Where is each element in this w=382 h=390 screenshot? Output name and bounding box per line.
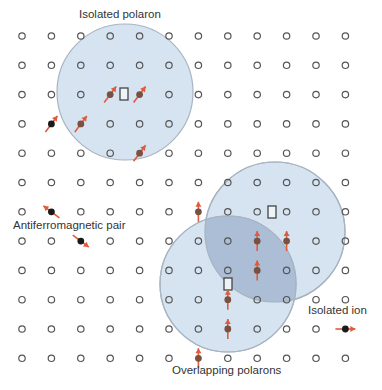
lattice-site bbox=[313, 326, 319, 332]
lattice-site bbox=[342, 179, 348, 185]
lattice-site bbox=[254, 355, 260, 361]
label-antiferromagnetic-pair: Antiferromagnetic pair bbox=[13, 219, 126, 231]
lattice-site bbox=[136, 267, 142, 273]
lattice-site bbox=[283, 326, 289, 332]
lattice-site bbox=[313, 33, 319, 39]
lattice-site bbox=[107, 267, 113, 273]
lattice-site bbox=[166, 209, 172, 215]
lattice-site bbox=[136, 297, 142, 303]
lattice-site bbox=[19, 238, 25, 244]
lattice-site bbox=[342, 209, 348, 215]
lattice-site bbox=[107, 179, 113, 185]
lattice-site bbox=[225, 62, 231, 68]
lattice-site bbox=[342, 355, 348, 361]
lattice-site bbox=[19, 121, 25, 127]
lattice-site bbox=[166, 355, 172, 361]
lattice-site bbox=[48, 33, 54, 39]
lattice-site bbox=[283, 355, 289, 361]
vacancy-icon bbox=[224, 278, 232, 290]
lattice-site bbox=[342, 62, 348, 68]
lattice-site bbox=[48, 238, 54, 244]
lattice-site bbox=[107, 238, 113, 244]
lattice-site bbox=[313, 297, 319, 303]
lattice-site bbox=[19, 91, 25, 97]
lattice-site bbox=[48, 150, 54, 156]
lattice-site bbox=[225, 355, 231, 361]
lattice-site bbox=[78, 297, 84, 303]
lattice-site bbox=[283, 91, 289, 97]
lattice-site bbox=[342, 150, 348, 156]
lattice-site bbox=[342, 297, 348, 303]
lattice-site bbox=[19, 326, 25, 332]
lattice-site bbox=[254, 62, 260, 68]
lattice-site bbox=[136, 326, 142, 332]
vacancy-icon bbox=[268, 206, 276, 218]
lattice-site bbox=[195, 179, 201, 185]
lattice-site bbox=[78, 33, 84, 39]
lattice-site bbox=[313, 62, 319, 68]
lattice-site bbox=[78, 355, 84, 361]
lattice-site bbox=[342, 33, 348, 39]
lattice-site bbox=[166, 238, 172, 244]
lattice-site bbox=[254, 91, 260, 97]
lattice-site bbox=[19, 33, 25, 39]
lattice-site bbox=[313, 150, 319, 156]
label-isolated-ion: Isolated ion bbox=[308, 304, 367, 316]
lattice-site bbox=[48, 297, 54, 303]
lattice-site bbox=[48, 179, 54, 185]
lattice-site bbox=[19, 209, 25, 215]
lattice-site bbox=[136, 179, 142, 185]
lattice-site bbox=[78, 267, 84, 273]
lattice-site bbox=[225, 150, 231, 156]
lattice-site bbox=[107, 297, 113, 303]
lattice-site bbox=[342, 121, 348, 127]
lattice-site bbox=[78, 150, 84, 156]
vacancy-icon bbox=[120, 88, 128, 100]
lattice-site bbox=[107, 326, 113, 332]
lattice-site bbox=[48, 326, 54, 332]
lattice-site bbox=[283, 62, 289, 68]
lattice-site bbox=[283, 33, 289, 39]
lattice-site bbox=[225, 91, 231, 97]
lattice-site bbox=[19, 297, 25, 303]
lattice-site bbox=[166, 326, 172, 332]
lattice-site bbox=[136, 355, 142, 361]
lattice-site bbox=[195, 91, 201, 97]
lattice-site bbox=[283, 150, 289, 156]
lattice-site bbox=[19, 267, 25, 273]
lattice-site bbox=[195, 62, 201, 68]
lattice-site bbox=[342, 267, 348, 273]
lattice-site bbox=[19, 355, 25, 361]
lattice-site bbox=[313, 355, 319, 361]
lattice-site bbox=[166, 150, 172, 156]
lattice-site bbox=[313, 121, 319, 127]
lattice-site bbox=[195, 150, 201, 156]
spin-arrow-icon bbox=[335, 326, 355, 333]
lattice-site bbox=[225, 33, 231, 39]
lattice-site bbox=[225, 121, 231, 127]
lattice-site bbox=[313, 91, 319, 97]
spin-arrow-icon bbox=[43, 206, 59, 218]
lattice-site bbox=[48, 355, 54, 361]
lattice-site bbox=[19, 179, 25, 185]
lattice-site bbox=[78, 326, 84, 332]
lattice-site bbox=[78, 179, 84, 185]
lattice-site bbox=[19, 62, 25, 68]
label-overlapping-polarons: Overlapping polarons bbox=[172, 364, 281, 376]
lattice-site bbox=[48, 62, 54, 68]
lattice-site bbox=[78, 209, 84, 215]
lattice-site bbox=[107, 355, 113, 361]
lattice-site bbox=[254, 121, 260, 127]
lattice-site bbox=[136, 209, 142, 215]
lattice-site bbox=[283, 121, 289, 127]
label-isolated-polaron: Isolated polaron bbox=[79, 8, 161, 20]
spin-arrow-icon bbox=[73, 235, 89, 247]
spin-arrow-icon bbox=[45, 116, 57, 132]
lattice-site bbox=[107, 209, 113, 215]
lattice-diagram bbox=[0, 0, 382, 390]
lattice-site bbox=[48, 267, 54, 273]
lattice-site bbox=[342, 91, 348, 97]
lattice-site bbox=[195, 33, 201, 39]
lattice-site bbox=[19, 150, 25, 156]
lattice-site bbox=[166, 33, 172, 39]
